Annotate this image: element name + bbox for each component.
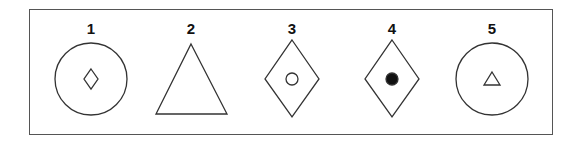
figure-2 [156, 44, 227, 114]
figure-5 [456, 43, 528, 115]
figure-4 [365, 40, 419, 117]
figure-shapes [0, 0, 566, 143]
triangle-shape [156, 44, 227, 114]
triangle-shape [484, 72, 500, 85]
diamond-shape [84, 69, 98, 89]
diamond-shape [265, 40, 319, 117]
circle-shape [55, 43, 127, 115]
figure-3 [265, 40, 319, 117]
figure-1 [55, 43, 127, 115]
filled-circle-shape [386, 73, 398, 85]
circle-shape [456, 43, 528, 115]
circle-shape [286, 73, 298, 85]
